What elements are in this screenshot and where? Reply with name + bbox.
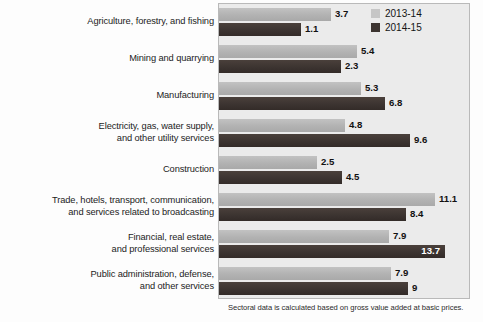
category-label-line: Manufacturing	[4, 90, 214, 102]
bar-chart: Agriculture, forestry, and fishing3.71.1…	[0, 0, 483, 322]
bar-fill	[219, 119, 345, 132]
category-label-line: Public administration, defense,	[4, 269, 214, 281]
bar-fill	[219, 245, 445, 258]
bar-value-label: 5.3	[361, 81, 378, 94]
bar-fill	[219, 156, 317, 169]
bar-fill	[219, 8, 331, 21]
category-label-line: Trade, hotels, transport, communication,	[4, 195, 214, 207]
category-label: Agriculture, forestry, and fishing	[4, 16, 214, 28]
category-label-line: Mining and quarrying	[4, 53, 214, 65]
bar-value-label: 3.7	[331, 7, 348, 20]
bar-fill	[219, 267, 391, 280]
chart-row: Mining and quarrying5.42.3	[0, 40, 483, 77]
bar-fill	[219, 23, 301, 36]
chart-row: Manufacturing5.36.8	[0, 77, 483, 114]
bar-value-label: 7.9	[391, 266, 408, 279]
bar-value-label: 2.5	[317, 155, 334, 168]
category-label-line: and professional services	[4, 244, 214, 256]
chart-legend: 2013-142014-15	[371, 7, 463, 35]
chart-row: Trade, hotels, transport, communication,…	[0, 188, 483, 225]
bar-fill	[219, 60, 341, 73]
category-label-line: and other utility services	[4, 133, 214, 145]
bar-value-label: 2.3	[341, 59, 358, 72]
category-label-line: Agriculture, forestry, and fishing	[4, 16, 214, 28]
category-label-line: Electricity, gas, water supply,	[4, 121, 214, 133]
legend-label: 2013-14	[385, 8, 422, 19]
bar-value-label: 9	[408, 281, 417, 294]
category-label-line: Financial, real estate,	[4, 232, 214, 244]
chart-rows: Agriculture, forestry, and fishing3.71.1…	[0, 3, 483, 299]
chart-row: Financial, real estate,and professional …	[0, 225, 483, 262]
chart-footnote: Sectoral data is calculated based on gro…	[228, 303, 478, 312]
bar-fill	[219, 208, 406, 221]
category-label-line: and other services	[4, 281, 214, 293]
legend-item: 2013-14	[371, 7, 463, 20]
bar-value-label: 5.4	[357, 44, 374, 57]
chart-row: Electricity, gas, water supply,and other…	[0, 114, 483, 151]
bar-fill	[219, 97, 385, 110]
legend-label: 2014-15	[385, 22, 422, 33]
legend-swatch-icon	[371, 9, 380, 18]
bar-value-label: 4.8	[345, 118, 362, 131]
bar-value-label: 1.1	[301, 22, 318, 35]
chart-row: Construction2.54.5	[0, 151, 483, 188]
category-label-line: Construction	[4, 164, 214, 176]
bar-value-label: 7.9	[389, 229, 406, 242]
category-label: Trade, hotels, transport, communication,…	[4, 195, 214, 218]
bar-fill	[219, 193, 435, 206]
category-label-line: and services related to broadcasting	[4, 207, 214, 219]
category-label: Mining and quarrying	[4, 53, 214, 65]
bar-fill	[219, 82, 361, 95]
legend-item: 2014-15	[371, 21, 463, 34]
legend-swatch-icon	[371, 23, 380, 32]
bar-value-label: 6.8	[385, 96, 402, 109]
bar-fill	[219, 282, 408, 295]
category-label: Electricity, gas, water supply,and other…	[4, 121, 214, 144]
bar-value-label: 9.6	[410, 133, 427, 146]
bar-value-label: 8.4	[406, 207, 423, 220]
bar-fill	[219, 45, 357, 58]
category-label: Public administration, defense,and other…	[4, 269, 214, 292]
bar-fill	[219, 134, 410, 147]
bar-fill	[219, 230, 389, 243]
bar-value-label: 13.7	[421, 244, 445, 257]
chart-row: Public administration, defense,and other…	[0, 262, 483, 299]
category-label: Manufacturing	[4, 90, 214, 102]
bar-value-label: 11.1	[435, 192, 457, 205]
category-label: Construction	[4, 164, 214, 176]
category-label: Financial, real estate,and professional …	[4, 232, 214, 255]
bar-value-label: 4.5	[342, 170, 359, 183]
bar-fill	[219, 171, 342, 184]
